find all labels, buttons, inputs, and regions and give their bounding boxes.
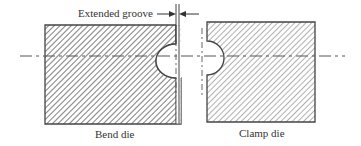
arrow-left-icon xyxy=(179,11,186,17)
clamp-die xyxy=(207,22,315,122)
bend-die-label: Bend die xyxy=(95,128,134,140)
arrow-right-icon xyxy=(169,11,176,17)
extended-groove-label: Extended groove xyxy=(78,7,153,19)
clamp-die-label: Clamp die xyxy=(239,127,285,139)
die-diagram xyxy=(0,0,361,146)
bend-die-outline xyxy=(45,25,181,124)
